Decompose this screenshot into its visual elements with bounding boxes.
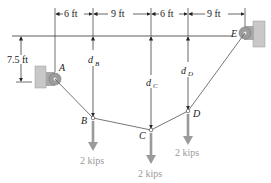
load-arrow-C [146,133,156,164]
label-C: C [139,130,146,141]
cable-diagram: 6 ft 9 ft 6 ft 9 ft 7.5 ft A E [0,0,271,183]
svg-text:7.5 ft: 7.5 ft [7,54,28,65]
svg-text:D: D [187,70,193,78]
label-E: E [230,28,237,39]
load-label-B: 2 kips [80,155,104,166]
node-B [91,116,95,120]
dimension-9ft-1: 9 ft [94,8,150,19]
load-arrow-B [88,121,98,151]
svg-text:d: d [146,77,152,88]
node-C [149,128,153,132]
svg-text:d: d [181,65,187,76]
svg-text:6 ft: 6 ft [160,8,174,19]
label-A: A [58,62,66,73]
dimension-6ft-2: 6 ft [152,8,187,19]
svg-text:6 ft: 6 ft [64,8,78,19]
load-label-D: 2 kips [175,147,199,158]
svg-text:C: C [153,82,158,90]
svg-text:d: d [88,54,94,65]
sag-dC: d C [146,37,158,128]
support-A [35,66,61,88]
load-arrow-D [183,114,193,145]
sag-dB: d B [88,37,100,116]
svg-text:B: B [95,60,100,68]
svg-text:9 ft: 9 ft [111,8,125,19]
load-label-C: 2 kips [138,168,162,179]
dimension-6ft-1: 6 ft [56,8,92,19]
dimension-7.5ft: 7.5 ft [7,37,32,82]
node-D [186,109,190,113]
dimension-9ft-2: 9 ft [189,8,244,19]
svg-text:9 ft: 9 ft [207,8,221,19]
sag-dD: d D [181,37,193,109]
label-B: B [81,115,87,126]
support-E [239,21,265,47]
label-D: D [192,108,201,119]
